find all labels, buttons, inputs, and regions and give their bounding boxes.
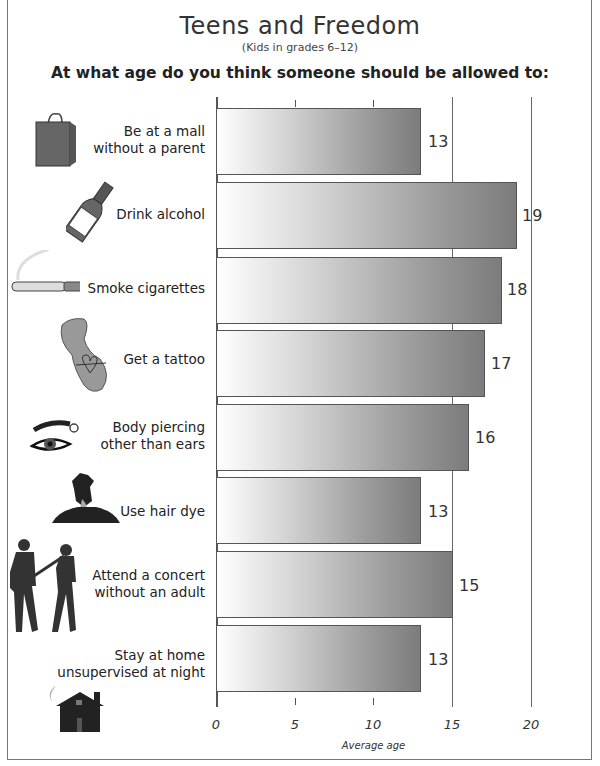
value-label: 13 <box>428 502 448 521</box>
bar-home <box>216 625 421 692</box>
value-label: 15 <box>459 576 479 595</box>
cigarette-icon <box>10 250 80 296</box>
x-tick-label: 20 <box>523 717 540 732</box>
bar-tattoo <box>216 330 485 397</box>
bar-smoke <box>216 257 502 324</box>
tick-10 <box>373 100 374 107</box>
value-label: 16 <box>475 428 495 447</box>
house-moon-icon <box>44 684 108 732</box>
x-axis-label: Average age <box>216 740 531 751</box>
chart-subtitle: (Kids in grades 6–12) <box>0 41 600 54</box>
category-label-alcohol: Drink alcohol <box>116 206 205 223</box>
category-label-piercing: Body piercingother than ears <box>101 419 205 453</box>
gridline-20 <box>531 97 532 707</box>
hair-silhouette-icon <box>52 473 122 525</box>
category-label-home: Stay at homeunsupervised at night <box>57 647 205 681</box>
pierced-eyebrow-icon <box>30 420 80 456</box>
value-label: 17 <box>491 354 511 373</box>
category-label-concert: Attend a concertwithout an adult <box>92 567 205 601</box>
value-label: 13 <box>428 132 448 151</box>
tick-10-bottom <box>373 698 374 705</box>
category-label-smoke: Smoke cigarettes <box>88 280 205 297</box>
x-tick-label: 5 <box>291 717 299 732</box>
category-label-tattoo: Get a tattoo <box>123 351 205 368</box>
value-label: 19 <box>522 206 542 225</box>
bottle-icon <box>66 178 118 244</box>
tick-5 <box>295 100 296 107</box>
value-label: 13 <box>428 650 448 669</box>
bar-piercing <box>216 404 469 471</box>
category-label-hair-dye: Use hair dye <box>120 503 205 520</box>
tick-5-bottom <box>295 698 296 705</box>
shopping-bag-icon <box>34 112 78 168</box>
x-tick-label: 10 <box>365 717 382 732</box>
x-tick-label: 15 <box>444 717 461 732</box>
bar-concert <box>216 551 453 618</box>
bar-hair-dye <box>216 477 421 544</box>
bar-alcohol <box>216 182 517 249</box>
plot-area: 13 19 18 17 16 13 15 13 <box>216 97 546 707</box>
tattoo-arm-icon <box>54 315 120 393</box>
category-label-mall: Be at a mallwithout a parent <box>93 123 205 157</box>
x-tick-label: 0 <box>212 717 220 732</box>
chart-question: At what age do you think someone should … <box>0 64 600 82</box>
value-label: 18 <box>507 280 527 299</box>
musicians-icon <box>8 538 86 636</box>
chart-title: Teens and Freedom <box>0 12 600 40</box>
bar-mall <box>216 108 421 175</box>
